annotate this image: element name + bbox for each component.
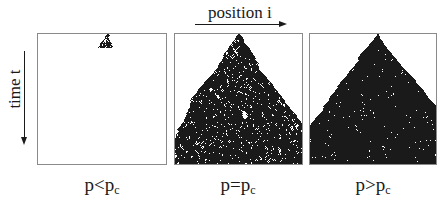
arrow-right-icon [279, 21, 287, 27]
caption-main: p<p [84, 174, 114, 195]
cluster-canvas-subcritical [38, 34, 166, 164]
time-arrow-line [24, 51, 25, 139]
caption-subscript: c [385, 183, 390, 197]
caption-supercritical: p>pc [355, 174, 390, 201]
caption-critical: p=pc [220, 174, 255, 201]
time-axis-label: time t [6, 64, 24, 114]
panel-critical [174, 33, 303, 165]
caption-main: p=p [220, 174, 250, 195]
position-arrow-line [195, 24, 280, 25]
caption-main: p>p [355, 174, 385, 195]
panel-subcritical [37, 33, 167, 165]
caption-subscript: c [250, 183, 255, 197]
caption-subscript: c [114, 183, 119, 197]
cluster-canvas-critical [175, 34, 302, 164]
arrow-down-icon [21, 137, 27, 145]
cluster-canvas-supercritical [310, 34, 436, 164]
caption-subcritical: p<pc [84, 174, 119, 201]
panel-supercritical [309, 33, 437, 165]
position-axis-label: position i [208, 4, 272, 22]
